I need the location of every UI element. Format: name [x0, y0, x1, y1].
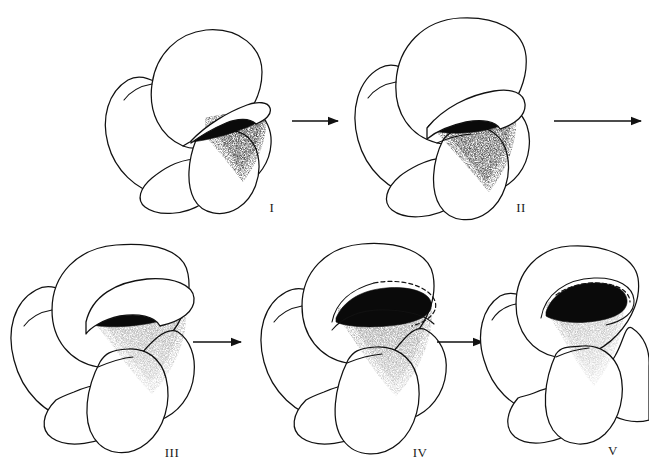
specimen-label-1: I — [270, 200, 275, 215]
specimen-label-4: IV — [413, 445, 428, 460]
foraminifera-ontogeny-figure: I II — [0, 0, 649, 470]
specimen-label-5: V — [608, 443, 618, 458]
specimen-label-2: II — [516, 200, 526, 215]
specimen-label-3: III — [165, 445, 180, 460]
